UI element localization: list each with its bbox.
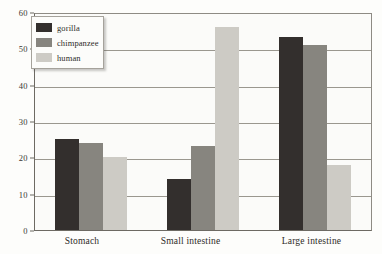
legend-item-chimpanzee[interactable]: chimpanzee (36, 36, 99, 49)
legend-item-gorilla[interactable]: gorilla (36, 21, 99, 34)
x-axis-labels: StomachSmall intestineLarge intestine (34, 233, 372, 253)
y-tick-label: 0 (2, 226, 28, 236)
bar-gorilla-large-intestine (279, 37, 303, 230)
bar-human-small-intestine (215, 27, 239, 230)
bar-gorilla-stomach (55, 139, 79, 230)
y-tick-label: 10 (2, 190, 28, 200)
legend-label: human (57, 53, 81, 63)
y-tick-label: 60 (2, 8, 28, 18)
y-tick-label: 40 (2, 81, 28, 91)
bar-human-large-intestine (327, 165, 351, 230)
bar-human-stomach (103, 157, 127, 230)
bar-chart: 0102030405060 StomachSmall intestineLarg… (0, 0, 382, 254)
x-tick-label: Stomach (65, 233, 100, 246)
bar-chimpanzee-small-intestine (191, 146, 215, 230)
legend-swatch-human (36, 53, 52, 62)
y-tick-label: 30 (2, 117, 28, 127)
y-tick-label: 20 (2, 153, 28, 163)
legend-swatch-chimpanzee (36, 38, 52, 47)
legend: gorillachimpanzeehuman (31, 16, 104, 69)
bar-group (279, 14, 351, 230)
y-tick-label: 50 (2, 44, 28, 54)
x-tick-label: Small intestine (161, 233, 221, 246)
bar-chimpanzee-large-intestine (303, 45, 327, 230)
legend-item-human[interactable]: human (36, 51, 99, 64)
bar-group (167, 14, 239, 230)
bar-chimpanzee-stomach (79, 143, 103, 230)
legend-label: chimpanzee (57, 38, 99, 48)
legend-label: gorilla (57, 23, 80, 33)
legend-swatch-gorilla (36, 23, 52, 32)
bar-gorilla-small-intestine (167, 179, 191, 230)
x-tick-label: Large intestine (282, 233, 342, 246)
